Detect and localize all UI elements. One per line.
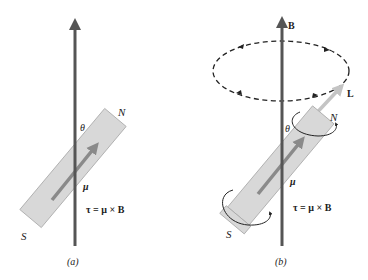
- angular-momentum-L-label: L: [347, 88, 354, 99]
- precession-direction-arrow: [238, 44, 244, 49]
- south-label: S: [226, 228, 232, 240]
- angle-theta-label: θ: [80, 122, 85, 133]
- panel-a-caption: (a): [67, 256, 79, 268]
- panel-b: B L N θ μ τ = μ × B S (b): [213, 20, 354, 268]
- moment-mu-label: μ: [82, 181, 89, 192]
- panel-b-caption: (b): [275, 256, 287, 268]
- angle-theta-label: θ: [285, 123, 290, 134]
- south-label: S: [21, 230, 27, 242]
- north-label: N: [117, 106, 126, 118]
- north-label: N: [329, 111, 338, 123]
- torque-equation: τ = μ × B: [293, 202, 332, 213]
- torque-equation: τ = μ × B: [86, 204, 125, 215]
- magnetic-moment-diagram: N θ μ τ = μ × B S (a) B L N θ μ: [0, 0, 368, 280]
- panel-a: N θ μ τ = μ × B S (a): [20, 24, 126, 268]
- precession-direction-arrow: [324, 47, 330, 52]
- field-B-label: B: [288, 20, 295, 31]
- moment-mu-label: μ: [289, 176, 296, 187]
